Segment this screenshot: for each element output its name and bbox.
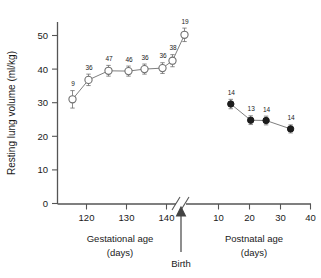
x-tick-label-120: 120	[79, 212, 95, 223]
y-tick-label-40: 40	[37, 64, 48, 75]
sample-size-label: 9	[71, 80, 75, 87]
y-axis-ticks	[52, 36, 58, 204]
series-postnatal-filled-circles: 14131414	[228, 89, 295, 133]
sample-size-label: 47	[105, 55, 113, 62]
y-axis-title: Resting lung volume (ml/kg)	[6, 51, 17, 175]
data-point	[125, 68, 132, 75]
data-point	[263, 117, 269, 123]
x-tick-label-140: 140	[159, 212, 175, 223]
x-axis-units-gestational: (days)	[107, 247, 133, 258]
y-tick-label-30: 30	[37, 97, 48, 108]
resting-lung-volume-chart: 0 10 20 30 40 50 Resting lung volume (ml…	[0, 0, 321, 278]
sample-size-label: 46	[125, 56, 133, 63]
data-point	[181, 31, 188, 38]
data-point	[85, 76, 92, 83]
sample-size-label: 38	[169, 44, 177, 51]
x-tick-label-40: 40	[305, 212, 316, 223]
x-axis-title-postnatal: Postnatal age	[225, 233, 283, 244]
x-tick-label-10: 10	[213, 212, 224, 223]
x-tick-label-130: 130	[119, 212, 135, 223]
x-axis-ticks-gestational	[87, 204, 167, 210]
x-axis-tick-labels-postnatal: 10 20 30 40	[213, 212, 316, 223]
birth-arrow-icon	[177, 207, 186, 252]
x-axis-title-gestational: Gestational age	[87, 233, 154, 244]
x-axis-units-postnatal: (days)	[241, 247, 267, 258]
x-axis-tick-labels-gestational: 120 130 140	[79, 212, 175, 223]
sample-size-label: 14	[228, 89, 236, 96]
series-gestational-open-circles: 936474636363819	[69, 18, 189, 108]
sample-size-label: 19	[181, 18, 189, 25]
data-point	[228, 101, 234, 107]
sample-size-label: 36	[141, 54, 149, 61]
x-tick-label-20: 20	[244, 212, 255, 223]
data-point	[248, 117, 254, 123]
sample-size-label: 14	[287, 114, 295, 121]
data-point	[69, 96, 76, 103]
data-point	[287, 126, 293, 132]
x-tick-label-30: 30	[275, 212, 286, 223]
y-tick-label-10: 10	[37, 164, 48, 175]
y-axis-tick-labels: 0 10 20 30 40 50	[37, 30, 48, 209]
y-tick-label-20: 20	[37, 131, 48, 142]
data-point	[105, 67, 112, 74]
x-axis-ticks-postnatal	[219, 204, 311, 210]
data-point	[159, 65, 166, 72]
data-point	[141, 66, 148, 73]
y-tick-label-50: 50	[37, 30, 48, 41]
data-point	[169, 57, 176, 64]
sample-size-label: 36	[85, 64, 93, 71]
series-connector-line	[231, 104, 291, 129]
sample-size-label: 14	[263, 106, 271, 113]
sample-size-label: 36	[159, 52, 167, 59]
y-tick-label-0: 0	[43, 198, 48, 209]
figure-container: 0 10 20 30 40 50 Resting lung volume (ml…	[0, 0, 321, 278]
sample-size-label: 13	[248, 105, 256, 112]
birth-label: Birth	[171, 258, 191, 269]
